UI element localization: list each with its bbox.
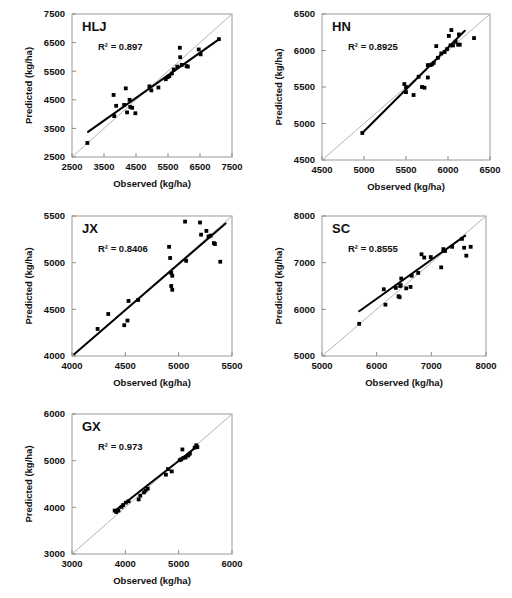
x-tick-label: 4500: [115, 360, 136, 371]
data-point: [117, 509, 121, 513]
data-point: [169, 284, 173, 288]
x-tick-label: 6000: [221, 558, 242, 569]
panel-title: GX: [82, 419, 101, 434]
data-point: [422, 256, 426, 260]
y-tick-label: 6500: [44, 37, 65, 48]
x-tick-label: 4000: [61, 360, 82, 371]
panel-title: JX: [82, 221, 98, 236]
data-point: [138, 494, 142, 498]
y-tick-label: 4500: [44, 304, 65, 315]
data-point: [136, 298, 140, 302]
data-point: [398, 295, 402, 299]
data-point: [472, 36, 476, 40]
y-tick-label: 5000: [44, 257, 65, 268]
data-point: [410, 274, 414, 278]
x-tick-label: 3500: [93, 161, 114, 172]
data-point: [213, 242, 217, 246]
data-point: [183, 220, 187, 224]
data-point: [112, 93, 116, 97]
data-point: [195, 445, 199, 449]
data-point: [124, 86, 128, 90]
r-squared-label: R² = 0.8406: [98, 243, 148, 254]
data-point: [469, 245, 473, 249]
y-tick-label: 7500: [44, 8, 65, 19]
data-point: [186, 65, 190, 69]
data-point: [434, 44, 438, 48]
x-tick-label: 5000: [168, 360, 189, 371]
chart-panel-sc: 50006000700080005000600070008000Observed…: [258, 210, 512, 400]
data-point: [357, 322, 361, 326]
data-point: [199, 233, 203, 237]
y-tick-label: 5500: [44, 210, 65, 221]
data-point: [184, 259, 188, 263]
y-tick-label: 5000: [44, 455, 65, 466]
x-tick-label: 8000: [475, 360, 496, 371]
data-point: [197, 48, 201, 52]
data-point-group: [85, 37, 220, 145]
data-point: [458, 43, 462, 47]
data-point: [399, 283, 403, 287]
y-tick-label: 7000: [294, 257, 315, 268]
r-squared-label: R² = 0.8925: [348, 41, 399, 52]
data-point: [460, 237, 464, 241]
data-point: [96, 327, 100, 331]
data-point: [382, 287, 386, 291]
data-point: [417, 75, 421, 79]
chart-panel-hlj: 2500350045005500650075002500350045005500…: [8, 6, 248, 204]
data-point: [426, 76, 430, 80]
data-point: [404, 286, 408, 290]
x-tick-label: 5000: [311, 360, 332, 371]
data-point: [198, 221, 202, 225]
data-point: [164, 473, 168, 477]
data-point: [180, 63, 184, 67]
x-tick-label: 7500: [221, 161, 242, 172]
data-point: [462, 246, 466, 250]
data-point: [451, 43, 455, 47]
panel-title: SC: [332, 221, 351, 236]
y-axis-title: Predicted (kg/ha): [23, 47, 34, 124]
data-point: [420, 252, 424, 256]
x-tick-label: 4500: [125, 161, 146, 172]
data-point: [218, 260, 222, 264]
data-point: [112, 114, 116, 118]
data-point: [399, 277, 403, 281]
chart-panel-hn: 4500500055006000650045005000550060006500…: [258, 0, 512, 205]
data-point: [170, 72, 174, 76]
x-tick-label: 2500: [61, 161, 82, 172]
y-axis-title: Predicted (kg/ha): [273, 247, 284, 324]
data-point: [146, 487, 150, 491]
x-tick-label: 3000: [61, 558, 82, 569]
x-tick-label: 6500: [479, 164, 500, 175]
x-tick-label: 5500: [221, 360, 242, 371]
data-point: [126, 319, 130, 323]
x-tick-label: 4000: [115, 558, 136, 569]
data-point: [429, 255, 433, 259]
chart-panel-jx: 40004500500055004000450050005500Observed…: [8, 210, 248, 400]
r-squared-label: R² = 0.973: [98, 441, 143, 452]
x-tick-label: 5500: [395, 164, 416, 175]
data-point: [166, 467, 170, 471]
data-point: [175, 65, 179, 69]
data-point: [394, 286, 398, 290]
data-point: [149, 88, 153, 92]
data-point: [205, 229, 209, 233]
y-tick-label: 4000: [44, 502, 65, 513]
data-point: [106, 312, 110, 316]
y-tick-label: 6000: [294, 45, 315, 56]
data-point: [125, 110, 129, 114]
data-point: [128, 98, 132, 102]
y-axis-title: Predicted (kg/ha): [23, 247, 34, 324]
y-axis-title: Predicted (kg/ha): [23, 445, 34, 522]
data-point: [432, 61, 436, 65]
data-point: [457, 33, 461, 37]
data-point: [443, 249, 447, 253]
data-point: [167, 245, 171, 249]
data-point: [157, 86, 161, 90]
x-axis-title: Observed (kg/ha): [113, 575, 191, 586]
data-point: [439, 265, 443, 269]
data-point: [447, 34, 451, 38]
data-point: [412, 93, 416, 97]
data-point: [178, 46, 182, 50]
data-point: [114, 104, 118, 108]
x-tick-label: 4500: [311, 164, 332, 175]
